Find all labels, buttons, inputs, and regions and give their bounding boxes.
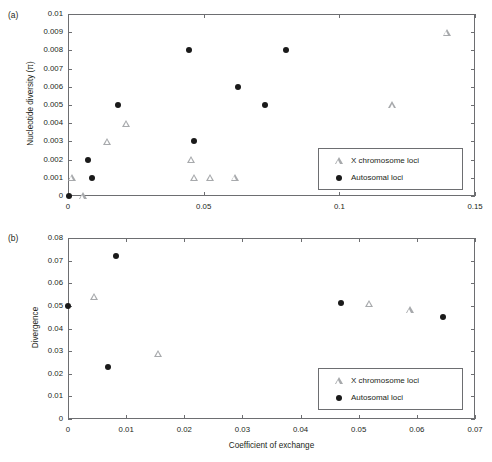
y-tick: [68, 351, 72, 352]
x-tick-label: 0.05: [337, 425, 381, 434]
legend-item-label: X chromosome loci: [351, 156, 419, 165]
triangle-open-icon: [323, 372, 351, 389]
x-tick: [204, 192, 205, 196]
x-tick-top: [242, 238, 243, 242]
data-point-autosomal: [262, 102, 268, 108]
y-tick-right: [471, 69, 475, 70]
y-tick-label: 0.01: [22, 9, 63, 18]
data-point-autosomal: [85, 157, 91, 163]
x-tick: [242, 415, 243, 419]
data-point-x-chromosome: [90, 293, 98, 300]
y-tick-right: [471, 50, 475, 51]
y-tick: [68, 105, 72, 106]
data-point-autosomal: [65, 303, 71, 309]
y-tick: [68, 32, 72, 33]
x-tick: [475, 415, 476, 419]
circle-filled-icon: [323, 389, 351, 406]
legend-item: X chromosome loci: [323, 372, 458, 389]
triangle-open-icon: [323, 152, 351, 169]
x-tick: [184, 415, 185, 419]
x-tick-top: [68, 238, 69, 242]
data-point-x-chromosome: [79, 192, 87, 199]
y-tick: [68, 69, 72, 70]
y-tick: [68, 329, 72, 330]
y-tick-label: 0.07: [22, 256, 63, 265]
y-tick-label: 0.008: [22, 45, 63, 54]
y-tick-right: [471, 374, 475, 375]
x-tick-top: [204, 14, 205, 18]
y-tick-right: [471, 351, 475, 352]
x-tick-label: 0: [46, 202, 90, 211]
x-tick: [475, 192, 476, 196]
y-tick-label: 0: [22, 191, 63, 200]
y-tick-label: 0.05: [22, 301, 63, 310]
x-tick-label: 0.05: [182, 202, 226, 211]
circle-filled-icon: [323, 169, 351, 186]
data-point-x-chromosome: [103, 138, 111, 145]
x-tick: [301, 415, 302, 419]
y-tick-label: 0.03: [22, 346, 63, 355]
x-tick: [417, 415, 418, 419]
y-tick-right: [471, 196, 475, 197]
x-tick-top: [339, 14, 340, 18]
data-point-autosomal: [105, 364, 111, 370]
data-point-x-chromosome: [187, 156, 195, 163]
x-tick-label: 0.01: [104, 425, 148, 434]
data-point-x-chromosome: [388, 101, 396, 108]
legend-item: Autosomal loci: [323, 389, 458, 406]
x-tick-label: 0.07: [453, 425, 492, 434]
x-tick-label: 0.04: [279, 425, 323, 434]
panel-a-tag: (a): [8, 10, 18, 20]
x-tick-top: [417, 238, 418, 242]
data-point-x-chromosome: [122, 120, 130, 127]
data-point-x-chromosome: [68, 174, 76, 181]
x-tick-label: 0.06: [395, 425, 439, 434]
y-tick-label: 0.06: [22, 278, 63, 287]
x-tick-top: [126, 238, 127, 242]
y-tick-label: 0.002: [22, 155, 63, 164]
x-tick-label: 0.03: [220, 425, 264, 434]
legend-item: Autosomal loci: [323, 169, 458, 186]
y-tick-label: 0.08: [22, 233, 63, 242]
x-tick-label: 0.02: [162, 425, 206, 434]
y-tick-label: 0.001: [22, 173, 63, 182]
panel-b-legend: X chromosome loci Autosomal loci: [318, 368, 463, 410]
y-tick-right: [471, 178, 475, 179]
x-tick-top: [475, 14, 476, 18]
y-tick-label: 0.01: [22, 391, 63, 400]
legend-item-label: X chromosome loci: [351, 376, 419, 385]
y-tick: [68, 419, 72, 420]
y-tick-right: [471, 419, 475, 420]
x-tick-label: 0: [46, 425, 90, 434]
y-tick-label: 0.009: [22, 27, 63, 36]
panel-b-tag: (b): [8, 233, 18, 243]
data-point-x-chromosome: [206, 174, 214, 181]
y-tick-right: [471, 329, 475, 330]
y-tick-right: [471, 261, 475, 262]
data-point-x-chromosome: [365, 300, 373, 307]
y-tick-right: [471, 32, 475, 33]
y-tick-right: [471, 141, 475, 142]
y-tick-right: [471, 306, 475, 307]
y-tick-label: 0.005: [22, 100, 63, 109]
legend-item-label: Autosomal loci: [351, 173, 403, 182]
y-tick-right: [471, 105, 475, 106]
x-tick-top: [68, 14, 69, 18]
data-point-x-chromosome: [406, 306, 414, 313]
x-tick: [68, 415, 69, 419]
x-tick-top: [359, 238, 360, 242]
y-tick: [68, 283, 72, 284]
x-tick: [359, 415, 360, 419]
panel-a-legend: X chromosome loci Autosomal loci: [318, 148, 463, 190]
panel-b-x-axis-title: Coefficient of exchange: [68, 441, 475, 450]
y-tick: [68, 374, 72, 375]
data-point-autosomal: [235, 84, 241, 90]
data-point-autosomal: [66, 193, 72, 199]
y-tick: [68, 141, 72, 142]
data-point-x-chromosome: [443, 29, 451, 36]
y-tick-right: [471, 160, 475, 161]
data-point-x-chromosome: [190, 174, 198, 181]
y-tick-right: [471, 283, 475, 284]
data-point-x-chromosome: [231, 174, 239, 181]
data-point-autosomal: [113, 253, 119, 259]
